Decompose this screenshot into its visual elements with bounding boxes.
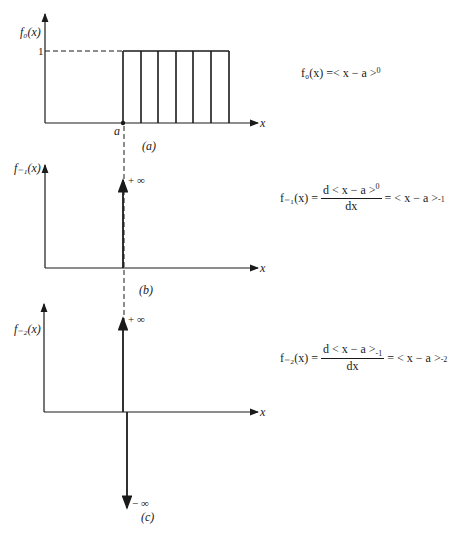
panel-c-ylabel: f₋₂(x) — [14, 322, 41, 336]
panel-c-doublet: f₋₂(x) + ∞ − ∞ x (c) — [14, 304, 266, 524]
equation-c: f₋₂(x) = d < x − a >-1 dx = < x − a >-2 — [280, 342, 447, 374]
panel-a-caption: (a) — [142, 139, 156, 153]
panel-b-xlabel: x — [259, 261, 266, 275]
panel-b-caption: (b) — [139, 283, 153, 297]
panel-a-level-label: 1 — [38, 45, 44, 57]
equation-a: f₀(x) = < x − a >0 — [301, 66, 381, 81]
panel-a-ylabel: f₀(x) — [20, 25, 41, 39]
singularity-functions-diagram: f₀(x) 1 a x (a) f₋₁(x) + ∞ x (b) f₋₂(x) … — [0, 0, 462, 534]
panel-a-step-function: f₀(x) 1 a x (a) — [20, 14, 266, 153]
step-bars — [123, 51, 229, 123]
point-a-dot — [121, 121, 125, 125]
panel-a-a-label: a — [114, 124, 120, 138]
equation-b: f₋₁(x) = d < x − a >0 dx = < x − a >-1 — [280, 182, 445, 214]
derivative-fraction: d < x − a >0 dx — [321, 182, 382, 214]
panel-c-xlabel: x — [259, 405, 266, 419]
panel-b-impulse: f₋₁(x) + ∞ x (b) — [14, 161, 266, 297]
panel-c-caption: (c) — [141, 510, 154, 524]
panel-c-impulse-up-label: + ∞ — [128, 313, 145, 325]
panel-b-impulse-label: + ∞ — [128, 174, 145, 186]
panel-c-impulse-down-label: − ∞ — [132, 497, 149, 509]
panel-a-xlabel: x — [259, 116, 266, 130]
derivative-fraction: d < x − a >-1 dx — [321, 342, 384, 374]
panel-b-ylabel: f₋₁(x) — [14, 161, 41, 175]
